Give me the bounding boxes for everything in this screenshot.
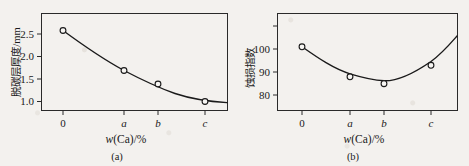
x-tick-label-a-3: c bbox=[203, 117, 208, 129]
panel-caption-b: (b) bbox=[347, 151, 360, 163]
x-tick-marks-a bbox=[63, 111, 205, 116]
panel-caption-a: (a) bbox=[111, 151, 123, 163]
chart-panel-a: 1.0 1.5 2.0 2.5 0 a b c w(Ca)/% 脱碳层厚度/mm bbox=[0, 0, 234, 166]
data-point-b-1 bbox=[347, 74, 353, 80]
x-tick-marks-b bbox=[302, 111, 431, 116]
data-curve-a bbox=[63, 31, 227, 103]
data-points-b bbox=[299, 44, 434, 87]
y-tick-label-a-3: 2.5 bbox=[20, 28, 34, 40]
plot-frame-a bbox=[42, 14, 228, 111]
x-tick-label-b-1: a bbox=[347, 117, 353, 129]
figure-container: 1.0 1.5 2.0 2.5 0 a b c w(Ca)/% 脱碳层厚度/mm bbox=[0, 0, 469, 166]
x-tick-label-a-2: b bbox=[155, 117, 161, 129]
x-tick-label-a-0: 0 bbox=[60, 117, 66, 129]
data-point-a-1 bbox=[121, 68, 127, 74]
y-tick-label-b-0: 80 bbox=[259, 89, 271, 101]
data-curve-b bbox=[302, 36, 457, 81]
data-point-b-3 bbox=[428, 62, 434, 68]
x-tick-label-b-0: 0 bbox=[299, 117, 305, 129]
data-point-a-0 bbox=[60, 28, 66, 34]
y-tick-label-b-1: 90 bbox=[259, 66, 271, 78]
x-axis-title-b-rest: (Ca)/% bbox=[351, 133, 385, 146]
data-point-b-0 bbox=[299, 44, 305, 50]
y-axis-title-b: 蚀损指数 bbox=[244, 47, 256, 88]
x-tick-label-a-1: a bbox=[121, 117, 127, 129]
y-tick-label-a-2: 2.0 bbox=[20, 50, 34, 62]
x-tick-label-b-2: b bbox=[381, 117, 387, 129]
x-tick-label-b-3: c bbox=[429, 117, 434, 129]
y-tick-label-b-2: 100 bbox=[254, 43, 271, 55]
data-point-b-2 bbox=[381, 81, 387, 87]
y-axis-title-a: 脱碳层厚度/mm bbox=[10, 27, 22, 96]
chart-svg-a: 1.0 1.5 2.0 2.5 0 a b c w(Ca)/% 脱碳层厚度/mm bbox=[0, 0, 234, 166]
y-tick-label-a-0: 1.0 bbox=[20, 95, 34, 107]
chart-svg-b: 80 90 100 0 a b c w(Ca)/% 蚀损指数 bbox=[234, 0, 469, 166]
y-tick-label-a-1: 1.5 bbox=[20, 73, 34, 85]
x-axis-title-b: w(Ca)/% bbox=[344, 133, 385, 146]
y-tick-marks-b bbox=[273, 26, 278, 95]
data-point-a-2 bbox=[155, 81, 161, 87]
x-axis-title-a: w(Ca)/% bbox=[106, 133, 147, 146]
y-tick-marks-a bbox=[37, 34, 42, 102]
x-axis-title-a-rest: (Ca)/% bbox=[113, 133, 147, 146]
data-point-a-3 bbox=[202, 99, 208, 105]
data-points-a bbox=[60, 28, 208, 105]
chart-panel-b: 80 90 100 0 a b c w(Ca)/% 蚀损指数 bbox=[234, 0, 468, 166]
